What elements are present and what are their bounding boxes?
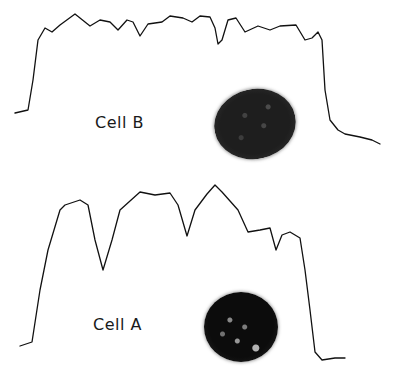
cell-b-label: Cell B — [95, 113, 144, 132]
cell-b-trace — [15, 14, 380, 144]
cell-a-nucleus-image — [204, 292, 278, 362]
cell-a-label: Cell A — [93, 315, 142, 334]
cell-a-trace — [20, 185, 345, 360]
traces — [0, 0, 395, 375]
figure: Cell B Cell A — [0, 0, 395, 375]
